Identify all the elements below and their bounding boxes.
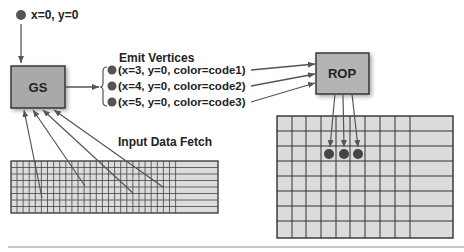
arrow-emit1-to-rop [251, 64, 315, 70]
input-vertex-label: x=0, y=0 [31, 8, 79, 22]
brace-icon [100, 67, 107, 106]
emit-vertices-group: Emit Vertices (x=3, y=0, color=code1) (x… [100, 51, 246, 108]
pixel-dot-icon [339, 149, 349, 159]
pixel-dot-icon [353, 149, 363, 159]
emit-item-2: (x=4, y=0, color=code2) [118, 80, 246, 92]
input-data-fetch-label: Input Data Fetch [118, 135, 212, 149]
arrow-emit3-to-rop [251, 83, 315, 102]
output-framebuffer-grid [277, 116, 453, 238]
emit-dot-icon [108, 98, 117, 107]
emit-item-1: (x=3, y=0, color=code1) [118, 64, 246, 76]
pixel-dot-icon [324, 149, 334, 159]
emit-dot-icon [108, 66, 117, 75]
emit-dot-icon [108, 82, 117, 91]
rop-box-label: ROP [328, 66, 357, 81]
input-vertex: x=0, y=0 [16, 8, 79, 22]
rop-box: ROP [316, 53, 369, 94]
gs-box: GS [11, 66, 65, 108]
arrow-emit2-to-rop [251, 74, 315, 86]
vertex-dot-icon [16, 10, 26, 20]
emit-item-3: (x=5, y=0, color=code3) [118, 96, 246, 108]
gs-box-label: GS [29, 80, 48, 95]
gs-rop-diagram: x=0, y=0 GS Emit Vertices (x=3, y=0, col… [0, 0, 464, 252]
input-data-grid [11, 161, 218, 213]
emit-vertices-title: Emit Vertices [119, 51, 195, 65]
